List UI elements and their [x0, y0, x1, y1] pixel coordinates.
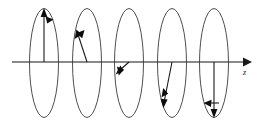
phase-5-group: [200, 9, 229, 119]
figure-canvas: z: [0, 0, 262, 129]
polarization-diagram: z: [0, 0, 262, 129]
phase-2-vector-shaft: [79, 36, 88, 62]
z-axis-arrowhead: [243, 58, 252, 67]
phase-4-vector-arrowhead: [161, 99, 168, 108]
z-axis-label: z: [242, 68, 247, 77]
z-axis-group: z: [12, 58, 252, 78]
